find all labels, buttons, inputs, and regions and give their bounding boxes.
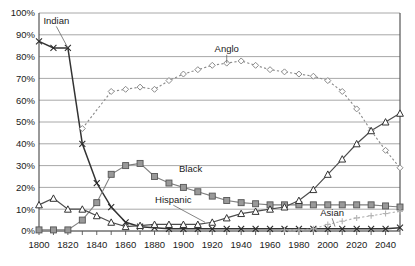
x-tick-label: 2040: [375, 239, 396, 250]
annotation-anglo: Anglo: [215, 43, 239, 54]
x-tick-label: 1980: [288, 239, 309, 250]
marker-black: [383, 203, 389, 209]
x-tick-label: 1800: [28, 239, 49, 250]
marker-black: [195, 189, 201, 195]
marker-black: [50, 227, 56, 233]
marker-black: [368, 202, 374, 208]
marker-black: [238, 200, 244, 206]
chart-container: 0%10%20%30%40%50%60%70%80%90%100% 180018…: [0, 0, 415, 266]
marker-black: [79, 217, 85, 223]
y-tick-label: 70%: [16, 73, 36, 84]
x-tick-label: 1820: [57, 239, 78, 250]
marker-black: [310, 202, 316, 208]
chart-background: [0, 0, 415, 266]
annotation-indian: Indian: [43, 15, 69, 26]
y-tick-label: 60%: [16, 95, 36, 106]
marker-black: [152, 174, 158, 180]
annotation-black: Black: [179, 163, 202, 174]
x-tick-label: 2020: [346, 239, 367, 250]
marker-black: [180, 184, 186, 190]
y-tick-label: 80%: [16, 51, 36, 62]
y-tick-label: 10%: [16, 204, 36, 215]
y-tick-label: 50%: [16, 116, 36, 127]
marker-black: [166, 180, 172, 186]
marker-black: [108, 171, 114, 177]
x-tick-label: 2000: [317, 239, 338, 250]
marker-black: [354, 202, 360, 208]
marker-black: [253, 201, 259, 207]
marker-black: [94, 200, 100, 206]
y-tick-label: 90%: [16, 29, 36, 40]
x-tick-label: 1840: [86, 239, 107, 250]
population-share-line-chart: 0%10%20%30%40%50%60%70%80%90%100% 180018…: [0, 0, 415, 266]
y-tick-label: 40%: [16, 138, 36, 149]
y-tick-label: 30%: [16, 160, 36, 171]
y-tick-label: 20%: [16, 182, 36, 193]
annotation-hispanic: Hispanic: [155, 194, 192, 205]
marker-black: [224, 197, 230, 203]
x-tick-label: 1880: [144, 239, 165, 250]
marker-black: [137, 160, 143, 166]
annotation-asian: Asian: [320, 207, 344, 218]
marker-black: [36, 227, 42, 233]
x-tick-label: 1940: [231, 239, 252, 250]
x-tick-label: 1920: [202, 239, 223, 250]
x-tick-label: 1960: [259, 239, 280, 250]
y-tick-label: 0%: [21, 225, 35, 236]
x-tick-label: 1860: [115, 239, 136, 250]
marker-black: [209, 193, 215, 199]
marker-black: [123, 163, 129, 169]
marker-black: [65, 227, 71, 233]
y-tick-label: 100%: [11, 7, 36, 18]
x-tick-label: 1900: [173, 239, 194, 250]
